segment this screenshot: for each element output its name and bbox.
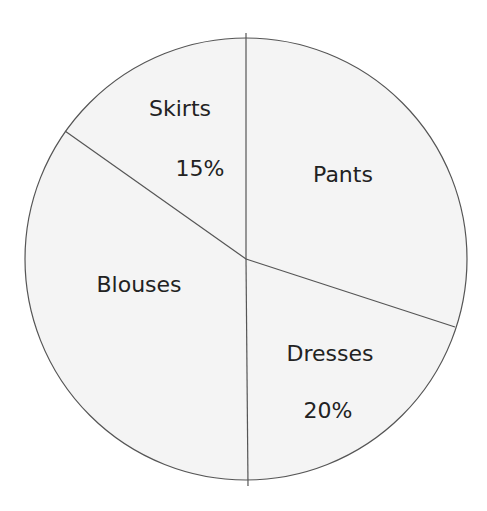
slice-label-pants: Pants — [313, 162, 373, 187]
pie-chart — [0, 0, 487, 511]
slice-label-dresses: Dresses — [287, 341, 374, 366]
slice-percent-dresses: 20% — [304, 398, 353, 423]
slice-label-blouses: Blouses — [96, 272, 181, 297]
slice-percent-skirts: 15% — [176, 156, 225, 181]
slice-label-skirts: Skirts — [149, 96, 211, 121]
